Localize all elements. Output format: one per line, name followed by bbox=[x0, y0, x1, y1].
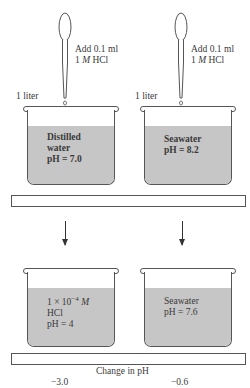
label-line2: HCl bbox=[47, 308, 89, 319]
pipette-left-label: Add 0.1 ml 1 M HCl bbox=[75, 44, 118, 66]
beaker-label: Seawater pH = 8.2 bbox=[164, 134, 201, 156]
beaker-label: Seawater pH = 7.6 bbox=[164, 296, 199, 318]
label-line1: 1 × 10−4 M bbox=[47, 294, 89, 308]
beaker-seawater: Seawater pH = 8.2 bbox=[144, 106, 232, 185]
pipette-right-label-line2: 1 M HCl bbox=[191, 55, 234, 66]
pipette-right bbox=[174, 12, 188, 107]
beaker-body: Seawater pH = 7.6 bbox=[144, 272, 232, 347]
pipette-left bbox=[58, 12, 72, 107]
volume-label-left: 1 liter bbox=[16, 91, 38, 102]
arrow-down-icon bbox=[182, 221, 183, 245]
concentration-unit: M bbox=[82, 55, 90, 65]
beaker-hcl-solution: 1 × 10−4 M HCl pH = 4 bbox=[27, 268, 115, 347]
arrow-down-icon bbox=[65, 221, 66, 245]
change-in-ph-right: −0.6 bbox=[171, 377, 188, 388]
beaker-body: 1 × 10−4 M HCl pH = 4 bbox=[27, 272, 115, 347]
reagent-name: HCl bbox=[90, 55, 108, 65]
label-line1: Seawater bbox=[164, 296, 199, 307]
beaker-label: Distilled water pH = 7.0 bbox=[47, 132, 82, 165]
volume-label-right: 1 liter bbox=[135, 91, 157, 102]
ph-value: pH = 4 bbox=[47, 319, 89, 330]
concentration-mantissa: 1 × 10 bbox=[47, 297, 71, 307]
pipette-left-label-line2: 1 M HCl bbox=[75, 55, 118, 66]
beaker-seawater-after: Seawater pH = 7.6 bbox=[144, 268, 232, 347]
shelf-top bbox=[11, 195, 246, 207]
reagent-name: HCl bbox=[206, 55, 224, 65]
ph-value: pH = 7.6 bbox=[164, 307, 199, 318]
beaker-distilled-water: Distilled water pH = 7.0 bbox=[27, 106, 115, 185]
label-line2: water bbox=[47, 143, 82, 154]
ph-value: pH = 8.2 bbox=[164, 145, 201, 156]
concentration-exponent: −4 bbox=[71, 295, 78, 303]
change-in-ph-title: Change in pH bbox=[96, 366, 149, 377]
beaker-label: 1 × 10−4 M HCl pH = 4 bbox=[47, 294, 89, 330]
ph-value: pH = 7.0 bbox=[47, 154, 82, 165]
beaker-body: Distilled water pH = 7.0 bbox=[27, 110, 115, 185]
pipette-right-label: Add 0.1 ml 1 M HCl bbox=[191, 44, 234, 66]
shelf-bottom bbox=[11, 353, 246, 365]
pipette-left-label-line1: Add 0.1 ml bbox=[75, 44, 118, 55]
concentration-unit: M bbox=[198, 55, 206, 65]
label-line1: Distilled bbox=[47, 132, 82, 143]
pipette-right-label-line1: Add 0.1 ml bbox=[191, 44, 234, 55]
change-in-ph-left: −3.0 bbox=[51, 377, 68, 388]
beaker-body: Seawater pH = 8.2 bbox=[144, 110, 232, 185]
concentration-unit: M bbox=[79, 297, 89, 307]
label-line1: Seawater bbox=[164, 134, 201, 145]
